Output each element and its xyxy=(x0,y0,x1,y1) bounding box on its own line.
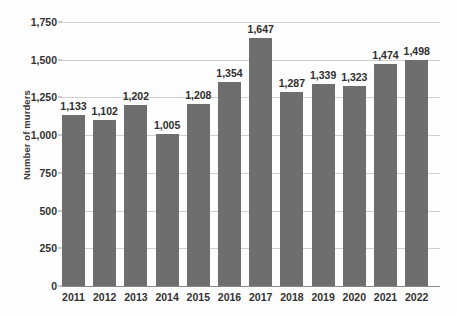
bar-value-label: 1,005 xyxy=(154,119,180,131)
bar-value-label: 1,323 xyxy=(341,71,367,83)
y-axis-tick-label: 250 xyxy=(39,242,57,254)
bar[interactable] xyxy=(156,134,179,286)
bar[interactable] xyxy=(249,38,272,286)
bar-group[interactable]: 1,2082015 xyxy=(187,22,210,286)
y-axis-tick-label: 1,250 xyxy=(31,91,57,103)
x-axis-category-label: 2019 xyxy=(311,291,334,303)
x-axis-category-label: 2022 xyxy=(405,291,428,303)
y-axis-tick-label: 500 xyxy=(39,205,57,217)
x-axis-category-label: 2013 xyxy=(124,291,147,303)
bars-layer: 1,13320111,10220121,20220131,00520141,20… xyxy=(62,22,440,286)
bar-value-label: 1,498 xyxy=(404,45,430,57)
bar[interactable] xyxy=(124,105,147,286)
bar-value-label: 1,647 xyxy=(248,23,274,35)
y-axis-tick-label: 1,750 xyxy=(31,16,57,28)
bar-group[interactable]: 1,4982022 xyxy=(405,22,428,286)
x-axis-category-label: 2012 xyxy=(93,291,116,303)
bar-value-label: 1,208 xyxy=(185,89,211,101)
y-axis-tick-label: 750 xyxy=(39,167,57,179)
bar-group[interactable]: 1,3392019 xyxy=(312,22,335,286)
bar[interactable] xyxy=(62,115,85,286)
bar-chart: Number of murders 02505007501,0001,2501,… xyxy=(0,0,457,316)
y-axis-tick-label: 1,500 xyxy=(31,54,57,66)
bar-group[interactable]: 1,3232020 xyxy=(343,22,366,286)
bar-group[interactable]: 1,4742021 xyxy=(374,22,397,286)
bar[interactable] xyxy=(280,92,303,286)
bar-value-label: 1,133 xyxy=(60,100,86,112)
bar[interactable] xyxy=(312,84,335,286)
bar-group[interactable]: 1,1332011 xyxy=(62,22,85,286)
bar-group[interactable]: 1,3542016 xyxy=(218,22,241,286)
y-axis-tick-label: 0 xyxy=(51,280,57,292)
y-axis-tick-label: 1,000 xyxy=(31,129,57,141)
x-axis-category-label: 2014 xyxy=(155,291,178,303)
bar-value-label: 1,202 xyxy=(123,90,149,102)
bar-group[interactable]: 1,2022013 xyxy=(124,22,147,286)
x-axis-category-label: 2021 xyxy=(374,291,397,303)
x-axis-category-label: 2018 xyxy=(280,291,303,303)
bar-value-label: 1,474 xyxy=(372,49,398,61)
bar-value-label: 1,102 xyxy=(92,105,118,117)
bar[interactable] xyxy=(187,104,210,286)
bar[interactable] xyxy=(93,120,116,286)
bar-value-label: 1,287 xyxy=(279,77,305,89)
x-axis-category-label: 2020 xyxy=(343,291,366,303)
bar-value-label: 1,339 xyxy=(310,69,336,81)
bar-group[interactable]: 1,0052014 xyxy=(156,22,179,286)
bar[interactable] xyxy=(218,82,241,286)
x-axis-category-label: 2011 xyxy=(62,291,85,303)
bar[interactable] xyxy=(405,60,428,286)
bar-group[interactable]: 1,1022012 xyxy=(93,22,116,286)
bar-group[interactable]: 1,6472017 xyxy=(249,22,272,286)
bar[interactable] xyxy=(374,64,397,286)
plot-area: 02505007501,0001,2501,5001,750 1,1332011… xyxy=(62,22,440,286)
bar-group[interactable]: 1,2872018 xyxy=(280,22,303,286)
bar-value-label: 1,354 xyxy=(216,67,242,79)
x-axis-category-label: 2015 xyxy=(187,291,210,303)
bar[interactable] xyxy=(343,86,366,286)
x-axis-category-label: 2016 xyxy=(218,291,241,303)
x-axis-category-label: 2017 xyxy=(249,291,272,303)
x-axis-line xyxy=(62,286,440,287)
